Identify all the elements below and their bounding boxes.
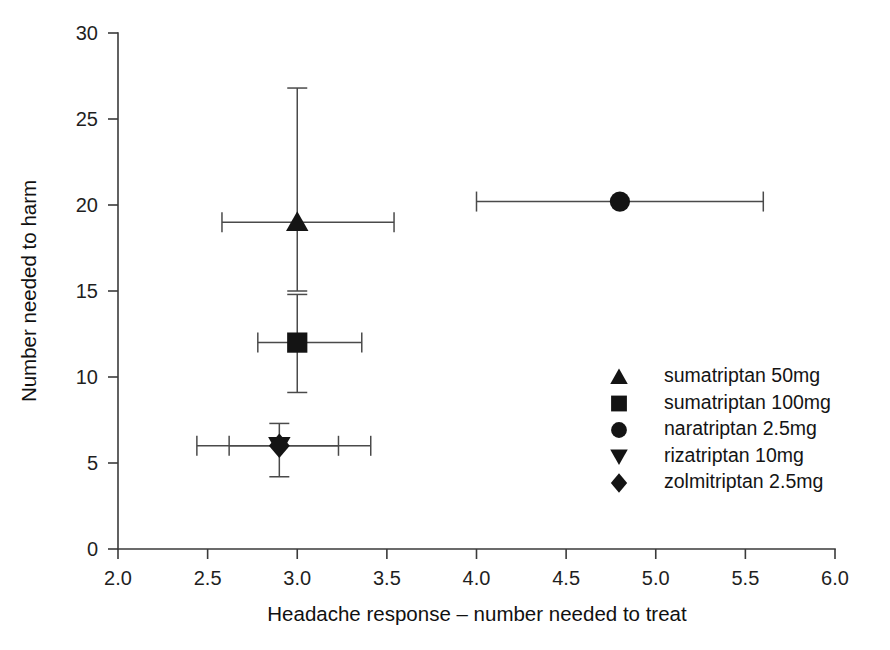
y-axis: 051015202530 [76,22,118,560]
y-tick-label: 25 [76,108,98,130]
x-tick-label: 3.5 [373,567,401,589]
y-tick-label: 5 [87,452,98,474]
data-point-marker [610,191,630,211]
data-point-marker [286,211,308,231]
legend-marker-triangle-down [610,450,628,465]
x-tick-label: 2.0 [104,567,132,589]
legend: sumatriptan 50mgsumatriptan 100mgnaratri… [610,364,831,492]
y-tick-label: 0 [87,538,98,560]
legend-label: zolmitriptan 2.5mg [664,470,823,492]
legend-label: sumatriptan 100mg [664,391,831,413]
legend-marker-triangle-up [610,368,628,383]
y-tick-label: 20 [76,194,98,216]
data-markers [268,191,630,458]
chart-figure: 051015202530 2.02.53.03.54.04.55.05.56.0… [0,0,890,650]
legend-marker-square [611,396,627,412]
legend-marker-diamond [611,473,627,492]
y-tick-label: 15 [76,280,98,302]
legend-label: rizatriptan 10mg [664,444,804,466]
x-tick-label: 6.0 [821,567,849,589]
x-tick-label: 4.0 [463,567,491,589]
x-axis-title: Headache response – number needed to tre… [267,602,687,625]
x-tick-label: 3.0 [283,567,311,589]
y-tick-label: 30 [76,22,98,44]
legend-label: naratriptan 2.5mg [664,417,817,439]
x-axis: 2.02.53.03.54.04.55.05.56.0 [104,549,849,589]
x-tick-label: 4.5 [552,567,580,589]
scatter-plot: 051015202530 2.02.53.03.54.04.55.05.56.0… [0,0,890,650]
x-tick-label: 5.5 [731,567,759,589]
legend-label: sumatriptan 50mg [664,364,820,386]
legend-marker-circle [611,422,627,438]
y-axis-title: Number needed to harm [17,180,40,402]
data-point-marker [287,332,307,352]
x-tick-label: 2.5 [194,567,222,589]
y-tick-label: 10 [76,366,98,388]
x-tick-label: 5.0 [642,567,670,589]
